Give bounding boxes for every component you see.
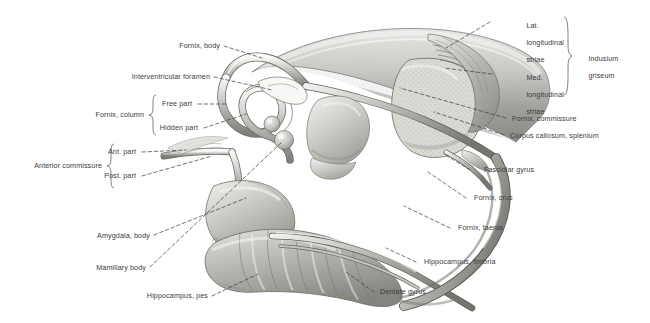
leader-fasciolar-gyrus — [444, 154, 470, 170]
anatomical-figure: Fornix, body Interventricular foramen Fo… — [0, 0, 650, 323]
label-lat-longitudinal-striae-line1: Lat. — [526, 21, 538, 30]
leader-med-longitudinal-striae — [444, 68, 492, 74]
leader-corpus-callosum-splenium — [434, 112, 504, 135]
label-anterior-commissure: Anterior commissure — [0, 162, 102, 171]
leader-ant-part — [142, 150, 186, 152]
label-free-part: Free part — [100, 100, 192, 109]
label-hidden-part: Hidden part — [100, 124, 198, 133]
leader-fornix-body — [224, 46, 262, 58]
label-fornix-crus: Fornix, crus — [474, 194, 574, 203]
leader-fornix-commissure — [400, 88, 506, 118]
label-mamillary-body: Mamillary body — [26, 264, 146, 273]
leader-fornix-crus — [428, 172, 466, 198]
label-fornix-taenia: Fornix, taenia — [458, 224, 558, 233]
label-amygdala-body: Amygdala, body — [26, 232, 150, 241]
leader-amygdala-body — [154, 198, 246, 235]
label-lat-longitudinal-striae-line2: longitudinal — [526, 38, 564, 47]
label-indusium-griseum: Indusium griseum — [580, 46, 648, 89]
label-indusium-griseum-line2: griseum — [588, 71, 614, 80]
label-fornix-column: Fornix, column — [20, 111, 144, 120]
leader-dentate-gyrus — [346, 272, 374, 292]
leader-hidden-part — [204, 114, 246, 128]
leader-interventricular-foramen — [214, 77, 272, 90]
label-fornix-body: Fornix, body — [60, 42, 220, 51]
label-med-longitudinal-striae-line1: Med. — [526, 73, 542, 82]
leader-hippocampus-pes — [212, 274, 258, 296]
leader-lat-longitudinal-striae — [446, 22, 490, 48]
label-med-longitudinal-striae-line2: longitudinal — [526, 90, 564, 99]
label-ant-part: Ant. part — [56, 148, 136, 157]
leader-mamillary-body — [150, 142, 282, 267]
label-post-part: Post. part — [56, 172, 136, 181]
label-hippocampus-fimbria: Hippocampus, fimbria — [424, 258, 554, 267]
label-corpus-callosum-splenium: Corpus callosum, splenium — [510, 132, 650, 141]
leader-hippocampus-fimbria — [386, 248, 416, 262]
label-interventricular-foramen: Interventricular foramen — [50, 73, 210, 82]
label-fornix-commissure: Fornix, commissure — [512, 115, 642, 124]
label-fasciolar-gyrus: Fasciolar gyrus — [484, 166, 594, 175]
label-lat-longitudinal-striae-line3: striae — [526, 55, 544, 64]
leader-post-part — [142, 156, 212, 176]
label-dentate-gyrus: Dentate gyrus — [380, 288, 490, 297]
leader-fornix-taenia — [404, 206, 450, 228]
label-indusium-griseum-line1: Indusium — [588, 54, 618, 63]
label-hippocampus-pes: Hippocampus, pes — [82, 292, 208, 301]
